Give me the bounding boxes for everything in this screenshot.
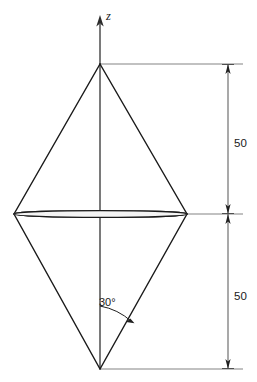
z-axis-label: z [105, 9, 111, 23]
edge-bottom-right [100, 214, 187, 369]
edge-top-right [100, 64, 187, 214]
angle-label: 30° [99, 296, 116, 308]
edge-bottom-left [14, 214, 100, 369]
dimension-upper [222, 64, 234, 214]
dimension-lower [222, 214, 234, 369]
equatorial-band [14, 210, 187, 218]
equator-ellipse-outline [14, 211, 187, 218]
angle-arc [100, 306, 132, 322]
diagram-canvas: z 50 50 30° [0, 0, 257, 382]
edge-top-left [14, 64, 100, 214]
bipyramid-drawing: z 50 50 30° [0, 0, 257, 382]
dimension-label-upper: 50 [234, 137, 247, 149]
angle-annotation [100, 306, 135, 323]
dimension-label-lower: 50 [234, 290, 247, 302]
